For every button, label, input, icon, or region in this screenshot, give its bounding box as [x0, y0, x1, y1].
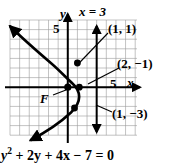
point-2-n1	[76, 84, 83, 91]
plot-canvas	[0, 0, 175, 167]
point-label-1-1: (1, 1)	[108, 22, 136, 35]
point-1-n3	[71, 105, 78, 112]
parabola-figure: y x = 3 5 5 x (1, 1) (2, −1) (1, −3) F y…	[0, 0, 175, 167]
equation-remainder: + 2y + 4x − 7 = 0	[12, 148, 114, 163]
point-label-1-neg3: (1, −3)	[112, 107, 148, 120]
leader-line-focus	[53, 90, 66, 95]
leader-line-lower	[96, 105, 112, 112]
point-1-1	[74, 60, 81, 67]
point-label-2-neg1: (2, −1)	[117, 57, 153, 70]
focus-label: F	[40, 92, 49, 105]
x-axis-label: x	[127, 76, 134, 89]
x-tick-label-5: 5	[110, 77, 117, 90]
equation-label: y2 + 2y + 4x − 7 = 0	[1, 147, 114, 163]
y-axis-label: y	[60, 7, 66, 20]
directrix-label: x = 3	[79, 5, 106, 18]
y-tick-label-5: 5	[53, 22, 60, 35]
parabola-curve	[10, 27, 79, 141]
point-focus	[64, 84, 71, 91]
